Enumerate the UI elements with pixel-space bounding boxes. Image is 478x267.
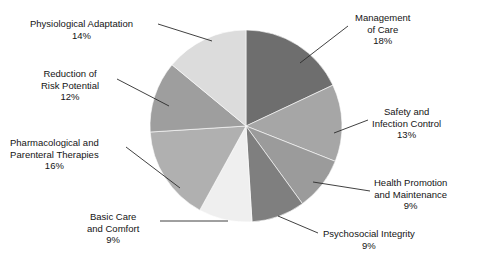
label-percent: 16% [10,160,99,172]
label-line-2: and Maintenance [374,189,447,201]
slice-label-psychosocial-integrity: Psychosocial Integrity 9% [323,228,415,251]
label-percent: 14% [30,30,133,42]
label-line-2: Infection Control [372,118,441,130]
slice-label-reduction-risk: Reduction of Risk Potential 12% [41,68,99,103]
label-percent: 9% [87,234,139,246]
leader-line-psychosocial-integrity [278,216,318,233]
label-line-2: Risk Potential [41,80,99,92]
slice-label-management-of-care: Management of Care 18% [355,12,410,47]
leader-line-management-of-care [300,26,348,63]
label-line-1: Basic Care [87,211,139,223]
leader-line-health-promotion [313,182,370,191]
label-percent: 9% [374,200,447,212]
slice-label-physiological-adaptation: Physiological Adaptation 14% [30,18,133,41]
label-percent: 9% [323,240,415,252]
slice-label-safety-infection-control: Safety and Infection Control 13% [372,106,441,141]
label-line-1: Reduction of [41,68,99,80]
label-line-1: Physiological Adaptation [30,18,133,30]
slice-label-health-promotion: Health Promotion and Maintenance 9% [374,177,447,212]
slice-label-pharmacological: Pharmacological and Parenteral Therapies… [10,137,99,172]
label-line-1: Management [355,12,410,24]
label-percent: 13% [372,129,441,141]
label-line-1: Pharmacological and [10,137,99,149]
label-line-2: of Care [355,24,410,36]
label-line-2: and Comfort [87,223,139,235]
label-line-1: Psychosocial Integrity [323,228,415,240]
pie-chart-page: Management of Care 18% Safety and Infect… [0,0,478,267]
label-percent: 18% [355,35,410,47]
slice-label-basic-care-comfort: Basic Care and Comfort 9% [87,211,139,246]
label-line-1: Health Promotion [374,177,447,189]
label-line-2: Parenteral Therapies [10,149,99,161]
label-line-1: Safety and [372,106,441,118]
leader-line-physiological-adaptation [158,24,212,41]
label-percent: 12% [41,91,99,103]
pie-slice-group [150,30,342,222]
